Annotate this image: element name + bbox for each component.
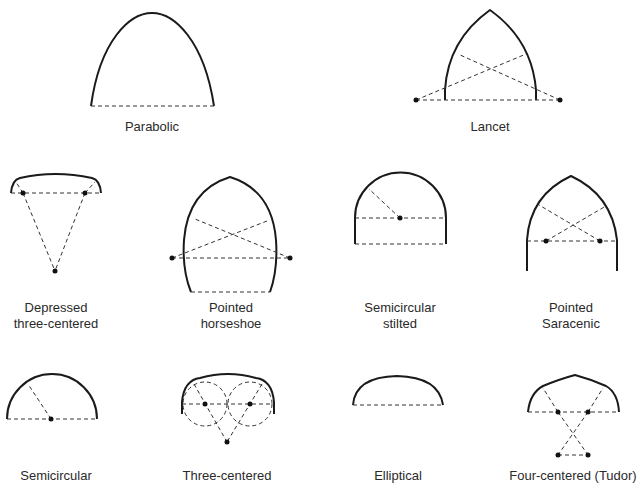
label-line: Semicircular: [364, 300, 436, 316]
label-elliptical: Elliptical: [374, 468, 422, 484]
label-pointed-horseshoe: Pointed horseshoe: [201, 300, 262, 332]
semicircular-arch: [7, 374, 97, 422]
label-line: three-centered: [14, 316, 99, 332]
label-line: horseshoe: [201, 316, 262, 332]
elliptical-arch: [353, 376, 443, 405]
depressed-three-centered-arch: [11, 174, 101, 274]
label-depressed-three-centered: Depressed three-centered: [14, 300, 99, 332]
label-four-centered-tudor: Four-centered (Tudor): [509, 468, 636, 484]
label-line: Depressed: [14, 300, 99, 316]
label-line: Saracenic: [542, 316, 600, 332]
label-three-centered: Three-centered: [183, 468, 272, 484]
label-pointed-saracenic: Pointed Saracenic: [542, 300, 600, 332]
label-lancet: Lancet: [470, 119, 509, 135]
three-centered-arch: [182, 374, 274, 445]
four-centered-tudor-arch: [528, 375, 619, 458]
pointed-horseshoe-arch: [170, 177, 293, 292]
label-semicircular-stilted: Semicircular stilted: [364, 300, 436, 332]
pointed-saracenic-arch: [527, 176, 617, 271]
parabolic-arch: [91, 13, 214, 106]
label-parabolic: Parabolic: [125, 119, 179, 135]
arch-diagram: [0, 0, 638, 494]
label-line: Pointed: [542, 300, 600, 316]
label-semicircular: Semicircular: [20, 468, 92, 484]
label-line: stilted: [364, 316, 436, 332]
label-line: Pointed: [201, 300, 262, 316]
lancet-arch: [414, 10, 563, 103]
semicircular-stilted-arch: [355, 173, 446, 245]
